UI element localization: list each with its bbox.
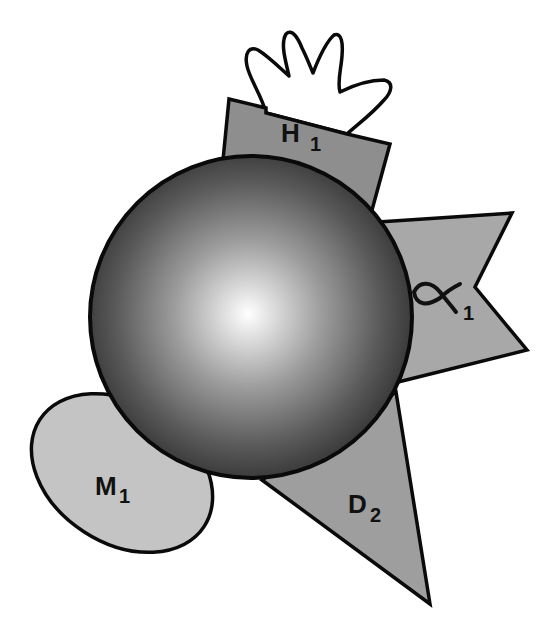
label-m1-sub: 1 [119, 485, 130, 507]
central-sphere [90, 156, 412, 478]
label-d2-sub: 2 [370, 504, 381, 526]
label-h1-main: H [281, 118, 300, 148]
label-d2-main: D [348, 489, 367, 519]
label-alpha1-sub: 1 [463, 302, 474, 324]
diagram-svg: H 1 1 D 2 M 1 [0, 0, 559, 636]
label-h1-sub: 1 [310, 133, 321, 155]
label-m1-main: M [95, 471, 117, 501]
diagram-canvas: H 1 1 D 2 M 1 [0, 0, 559, 636]
